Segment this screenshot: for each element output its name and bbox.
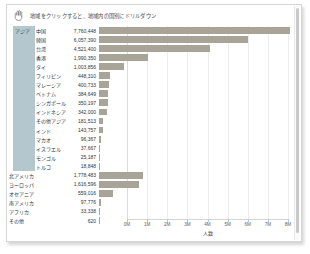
bar-cell <box>99 135 296 144</box>
country-row[interactable]: シンガポール350,197 <box>7 98 296 107</box>
country-row[interactable]: モンゴル25,187 <box>7 153 296 162</box>
bar-cell <box>99 89 296 98</box>
bar[interactable] <box>99 109 107 116</box>
tick-label: 6M <box>245 222 251 227</box>
region-band-cell[interactable] <box>7 53 35 62</box>
bar[interactable] <box>99 63 124 70</box>
country-label: 中国 <box>35 26 66 35</box>
bar[interactable] <box>99 36 248 43</box>
value-label: 1,003,856 <box>66 62 99 71</box>
country-row[interactable]: フィリピン448,310 <box>7 71 296 80</box>
country-label: イスラエル <box>35 144 66 153</box>
region-row[interactable]: アフリカ33,338 <box>7 207 296 216</box>
bar[interactable] <box>99 199 101 206</box>
region-band-cell[interactable] <box>7 71 35 80</box>
bar[interactable] <box>99 118 103 125</box>
country-row[interactable]: インドネシア342,000 <box>7 107 296 116</box>
vertical-scrollbar[interactable] <box>294 6 300 240</box>
country-row[interactable]: その他アジア181,513 <box>7 116 296 125</box>
bar-cell <box>99 71 296 80</box>
value-label: 559,016 <box>66 189 99 198</box>
country-row[interactable]: インド143,757 <box>7 126 296 135</box>
bar[interactable] <box>99 99 108 106</box>
bar[interactable] <box>99 136 101 143</box>
bar-cell <box>99 116 296 125</box>
country-label: 台湾 <box>35 44 66 53</box>
country-row[interactable]: イスラエル37,667 <box>7 144 296 153</box>
country-label: トルコ <box>35 162 66 171</box>
country-row[interactable]: マカオ96,367 <box>7 135 296 144</box>
bar-cell <box>99 171 296 180</box>
value-label: 18,848 <box>66 162 99 171</box>
region-band-cell[interactable] <box>7 98 35 107</box>
region-row[interactable]: 南アメリカ97,776 <box>7 198 296 207</box>
bar[interactable] <box>99 181 139 188</box>
tick-label: 1M <box>144 222 150 227</box>
country-label: その他アジア <box>35 116 66 125</box>
bar[interactable] <box>99 45 210 52</box>
bar[interactable] <box>99 163 100 170</box>
chart-body: アジア中国7,760,448韓国6,057,390台湾4,521,400香港1,… <box>7 26 296 241</box>
bar-cell <box>99 189 296 198</box>
region-label: ヨーロッパ <box>7 180 66 189</box>
value-label: 96,367 <box>66 135 99 144</box>
region-band-cell[interactable] <box>7 89 35 98</box>
bar[interactable] <box>99 54 148 61</box>
country-label: ベトナム <box>35 89 66 98</box>
country-row[interactable]: 台湾4,521,400 <box>7 44 296 53</box>
scrollbar-thumb[interactable] <box>296 8 299 233</box>
bar[interactable] <box>99 127 103 134</box>
region-band-cell[interactable] <box>7 44 35 53</box>
value-label: 7,760,448 <box>66 26 99 35</box>
value-label: 1,616,596 <box>66 180 99 189</box>
country-row[interactable]: ベトナム384,649 <box>7 89 296 98</box>
chart-rows: アジア中国7,760,448韓国6,057,390台湾4,521,400香港1,… <box>7 26 296 225</box>
bar[interactable] <box>99 90 108 97</box>
value-label: 4,521,400 <box>66 44 99 53</box>
bar[interactable] <box>99 190 113 197</box>
region-row[interactable]: 北アメリカ1,778,483 <box>7 171 296 180</box>
region-row[interactable]: オセアニア559,016 <box>7 189 296 198</box>
region-band-cell[interactable] <box>7 116 35 125</box>
bar[interactable] <box>99 217 100 224</box>
bar-cell <box>99 44 296 53</box>
value-label: 143,757 <box>66 126 99 135</box>
country-row[interactable]: マレーシア400,733 <box>7 80 296 89</box>
bar[interactable] <box>99 154 100 161</box>
country-row[interactable]: タイ1,003,856 <box>7 62 296 71</box>
region-row[interactable]: ヨーロッパ1,616,596 <box>7 180 296 189</box>
country-label: マカオ <box>35 135 66 144</box>
bar[interactable] <box>99 72 110 79</box>
region-band-cell[interactable] <box>7 62 35 71</box>
bar-cell <box>99 180 296 189</box>
value-label: 342,000 <box>66 107 99 116</box>
region-band-cell[interactable] <box>7 135 35 144</box>
region-band-cell[interactable]: アジア <box>7 26 35 35</box>
visualization-panel: 地域をクリックすると、地域内の国別にドリルダウン アジア中国7,760,448韓… <box>6 4 302 242</box>
region-band-cell[interactable] <box>7 35 35 44</box>
country-row[interactable]: トルコ18,848 <box>7 162 296 171</box>
region-label: その他 <box>7 216 66 225</box>
bar[interactable] <box>99 172 143 179</box>
bar[interactable] <box>99 145 100 152</box>
country-label: 韓国 <box>35 35 66 44</box>
bar[interactable] <box>99 81 109 88</box>
bar[interactable] <box>99 27 290 34</box>
country-row[interactable]: アジア中国7,760,448 <box>7 26 296 35</box>
tick-label: 2M <box>164 222 170 227</box>
region-band-cell[interactable] <box>7 153 35 162</box>
country-row[interactable]: 香港1,990,350 <box>7 53 296 62</box>
tick-label: 5M <box>224 222 230 227</box>
region-band-cell[interactable] <box>7 144 35 153</box>
bar-cell <box>99 80 296 89</box>
region-band-cell[interactable] <box>7 126 35 135</box>
bar[interactable] <box>99 208 100 215</box>
axis-title-label: 人数 <box>203 229 213 236</box>
tick-label: 0M <box>124 222 130 227</box>
region-band-cell[interactable] <box>7 80 35 89</box>
country-row[interactable]: 韓国6,057,390 <box>7 35 296 44</box>
region-label: アフリカ <box>7 207 66 216</box>
country-label: インド <box>35 126 66 135</box>
region-band-cell[interactable] <box>7 162 35 171</box>
region-band-cell[interactable] <box>7 107 35 116</box>
